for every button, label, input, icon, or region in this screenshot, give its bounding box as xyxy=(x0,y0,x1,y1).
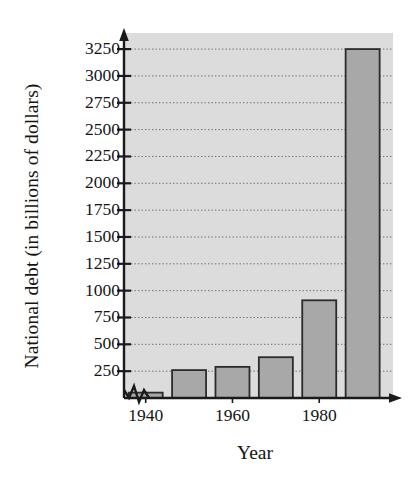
x-axis-title: Year xyxy=(130,442,380,464)
x-axis-tick-label: 1980 xyxy=(302,407,337,425)
plot-area: 2505007501000125015001750200022502500275… xyxy=(0,0,410,480)
x-axis-tick-label: 1940 xyxy=(128,407,163,425)
y-axis-title: National debt (in billions of dollars) xyxy=(21,36,43,416)
x-axis-tick-label: 1960 xyxy=(215,407,250,425)
chart-figure: 2505007501000125015001750200022502500275… xyxy=(0,0,410,480)
x-axis-tick-labels: 194019601980 xyxy=(0,0,410,480)
